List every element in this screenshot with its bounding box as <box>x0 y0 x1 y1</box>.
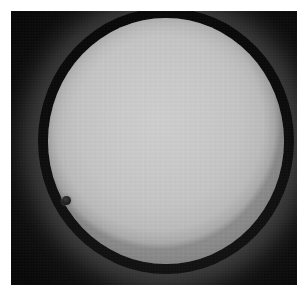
photographic-plate <box>11 11 297 285</box>
image-canvas <box>0 0 307 294</box>
venus-transit-silhouette <box>62 196 71 205</box>
solar-disk <box>48 18 284 264</box>
photosphere-texture <box>48 18 284 264</box>
